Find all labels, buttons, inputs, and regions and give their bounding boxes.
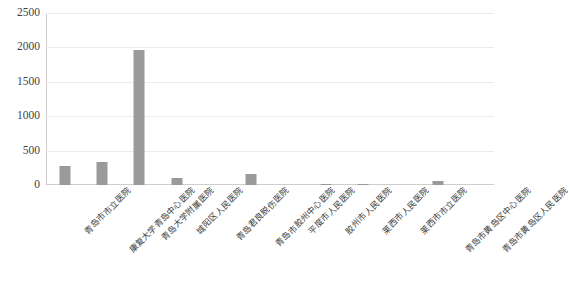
bar-slot (419, 13, 456, 185)
bar-slot (307, 13, 344, 185)
y-tick-label: 2500 (2, 7, 40, 19)
y-tick-label: 2000 (2, 42, 40, 54)
bar-slot (457, 13, 494, 185)
y-tick-label: 1500 (2, 76, 40, 88)
bar-slot (121, 13, 158, 185)
x-tick-label: 青岛市黄岛区人民医院 (501, 186, 570, 255)
bar-slot (382, 13, 419, 185)
x-tick-label: 青岛市黄岛区中心医院 (464, 186, 533, 255)
y-tick-label: 0 (2, 179, 40, 191)
bar[interactable] (171, 178, 182, 185)
bar-slot (233, 13, 270, 185)
y-tick-label: 500 (2, 145, 40, 157)
bar-slot (345, 13, 382, 185)
bar-slot (83, 13, 120, 185)
bar[interactable] (358, 184, 369, 185)
x-tick-label: 青岛市市立医院 (83, 186, 133, 236)
bar-slot (195, 13, 232, 185)
bar[interactable] (432, 181, 443, 185)
x-axis-category-labels: 青岛市市立医院康复大学青岛中心医院青岛大学附属医院城阳区人民医院青岛君良脱伤医院… (46, 186, 494, 296)
y-tick-label: 1000 (2, 110, 40, 122)
bar-slot (158, 13, 195, 185)
plot-area (46, 13, 494, 185)
bars-layer (46, 13, 494, 185)
bar[interactable] (134, 50, 145, 185)
bar[interactable] (246, 174, 257, 185)
bar[interactable] (59, 166, 70, 185)
bar-slot (46, 13, 83, 185)
bar[interactable] (96, 162, 107, 185)
bar-slot (270, 13, 307, 185)
